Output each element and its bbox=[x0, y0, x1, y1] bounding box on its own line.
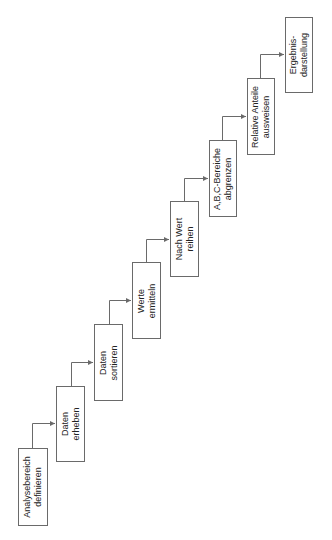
step-box-abc-bereiche-abgrenzen: A,B,C-Bereiche abgrenzen bbox=[209, 140, 237, 217]
step-box-ergebnisdarstellung: Ergebnis- darstellung bbox=[285, 17, 313, 93]
step-box-werte-ermitteln: Werte ermitteln bbox=[132, 262, 161, 339]
step-label: Daten sortieren bbox=[98, 345, 120, 380]
step-box-analysebereich-definieren: Analysebereich definieren bbox=[18, 448, 48, 526]
step-box-nach-wert-reihen: Nach Wert reihen bbox=[170, 201, 199, 277]
connector-arrow bbox=[72, 363, 94, 387]
step-label: Werte ermitteln bbox=[136, 283, 158, 318]
step-label: A,B,C-Bereiche abgrenzen bbox=[212, 147, 234, 209]
connector-layer bbox=[0, 0, 332, 540]
step-label: Analysebereich definieren bbox=[22, 456, 44, 518]
connector-arrow bbox=[33, 424, 56, 449]
step-label: Relative Anteile ausweisen bbox=[250, 85, 272, 147]
step-box-daten-sortieren: Daten sortieren bbox=[94, 324, 123, 401]
step-label: Ergebnis- darstellung bbox=[288, 33, 310, 77]
connector-arrow bbox=[147, 240, 170, 263]
step-box-daten-erheben: Daten erheben bbox=[56, 386, 85, 462]
step-box-relative-anteile-ausweisen: Relative Anteile ausweisen bbox=[247, 78, 275, 155]
step-label: Daten erheben bbox=[60, 407, 82, 440]
step-label: Nach Wert reihen bbox=[174, 218, 196, 260]
connector-arrow bbox=[185, 179, 209, 202]
connector-arrow bbox=[261, 55, 285, 79]
connector-arrow bbox=[110, 301, 132, 325]
abc-analysis-process-diagram: Analysebereich definieren Daten erheben … bbox=[0, 0, 332, 540]
connector-arrow bbox=[223, 117, 247, 141]
